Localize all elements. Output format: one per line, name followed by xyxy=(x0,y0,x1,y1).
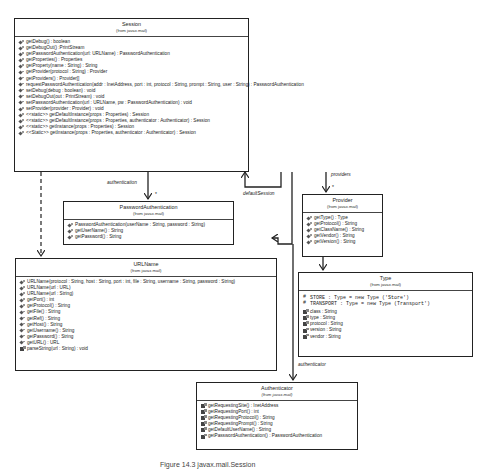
class-package: (from javax.mail) xyxy=(299,282,472,288)
public-method-icon xyxy=(19,107,24,111)
class-header: Provider (from javax.mail) xyxy=(303,195,382,213)
public-method-icon xyxy=(19,46,24,50)
class-name: Session xyxy=(15,21,248,28)
multiplicity-providers: * xyxy=(332,184,334,190)
public-method-icon xyxy=(20,298,25,302)
public-method-icon xyxy=(19,119,24,123)
static-field-icon xyxy=(303,302,308,306)
attribute-row: parseString(url : String) : void xyxy=(20,346,273,352)
private-member-icon xyxy=(303,316,308,320)
public-method-icon xyxy=(68,235,73,239)
class-name: Provider xyxy=(303,197,382,204)
class-name: Authenticator xyxy=(197,385,357,392)
method-row: getPassword() : String xyxy=(68,234,230,240)
public-method-icon xyxy=(20,292,25,296)
class-urlname[interactable]: URLName (from javax.mail) URLName(protoc… xyxy=(15,258,277,371)
public-method-icon xyxy=(20,341,25,345)
class-name: Type xyxy=(299,275,472,282)
public-method-icon xyxy=(19,58,24,62)
private-member-icon xyxy=(303,329,308,333)
public-method-icon xyxy=(20,329,25,333)
class-package: (from javax.mail) xyxy=(64,211,233,217)
member-text: <<Static>> getInstance(props : Propertie… xyxy=(26,130,196,136)
private-member-icon xyxy=(303,322,308,326)
association-default-session xyxy=(245,172,281,187)
public-method-icon xyxy=(19,52,24,56)
class-password-authentication[interactable]: PasswordAuthentication (from javax.mail)… xyxy=(63,201,234,245)
class-header: Authenticator (from javax.mail) xyxy=(197,383,357,401)
public-method-icon xyxy=(19,83,24,87)
private-member-icon xyxy=(201,416,206,420)
method-list: getType() : TypegetProtocol() : Stringge… xyxy=(303,213,382,247)
public-method-icon xyxy=(20,286,25,290)
class-name: PasswordAuthentication xyxy=(64,204,233,211)
class-header: URLName (from javax.mail) xyxy=(16,259,276,277)
private-member-icon xyxy=(201,404,206,408)
public-method-icon xyxy=(307,228,312,232)
member-text: parseString(url : String) : void xyxy=(27,346,88,352)
private-member-icon xyxy=(201,410,206,414)
label-authentication: authentication xyxy=(107,180,137,185)
constant-row: TRANSPORT : Type = new Type (Transport') xyxy=(303,301,469,307)
public-method-icon xyxy=(19,131,24,135)
method-list: getDebug() : booleangetDebugOut() :Print… xyxy=(15,37,248,139)
label-default-session: defaultSession xyxy=(243,191,274,196)
member-text: getPasswordAuthentication() : PasswordAu… xyxy=(208,433,322,439)
method-list: PasswordAuthentication(userName : String… xyxy=(64,220,233,242)
private-member-icon xyxy=(201,428,206,432)
label-providers: providers xyxy=(331,172,351,177)
public-method-icon xyxy=(19,64,24,68)
class-package: (from javax.mail) xyxy=(16,268,276,274)
public-method-icon xyxy=(19,125,24,129)
public-method-icon xyxy=(19,89,24,93)
attribute-row: getPasswordAuthentication() : PasswordAu… xyxy=(201,433,354,439)
label-authenticator: authenticator xyxy=(298,362,326,367)
public-method-icon xyxy=(20,317,25,321)
class-authenticator[interactable]: Authenticator (from javax.mail) getReque… xyxy=(196,382,358,450)
private-member-icon xyxy=(303,335,308,339)
public-method-icon xyxy=(307,240,312,244)
method-list: URLName(protocol : String, host : String… xyxy=(16,277,276,354)
public-method-icon xyxy=(20,335,25,339)
method-row: <<Static>> getInstance(props : Propertie… xyxy=(19,130,245,136)
public-method-icon xyxy=(68,223,73,227)
public-method-icon xyxy=(19,101,24,105)
public-method-icon xyxy=(307,222,312,226)
multiplicity-authentication: * xyxy=(155,191,157,197)
figure-caption: Figure 14.3 javax.mail.Session xyxy=(160,461,255,468)
class-type[interactable]: Type (from javax.mail) STORE : Type = ne… xyxy=(298,272,473,357)
public-method-icon xyxy=(20,280,25,284)
public-method-icon xyxy=(68,229,73,233)
class-header: PasswordAuthentication (from javax.mail) xyxy=(64,202,233,220)
public-method-icon xyxy=(20,311,25,315)
private-member-icon xyxy=(303,310,308,314)
method-row: getVersion() : String xyxy=(307,239,379,245)
public-method-icon xyxy=(19,95,24,99)
class-provider[interactable]: Provider (from javax.mail) getType() : T… xyxy=(302,194,383,257)
member-text: vendor : String xyxy=(310,334,341,340)
private-member-icon xyxy=(201,422,206,426)
member-text: getVersion() : String xyxy=(314,239,355,245)
public-method-icon xyxy=(307,216,312,220)
public-method-icon xyxy=(19,77,24,81)
class-header: Type (from javax.mail) xyxy=(299,273,472,291)
method-list: getRequestingSite() : InetAddressgetRequ… xyxy=(197,401,357,442)
member-text: getPassword() : String xyxy=(75,234,121,240)
class-name: URLName xyxy=(16,261,276,268)
class-package: (from javax.mail) xyxy=(303,204,382,210)
private-member-icon xyxy=(201,435,206,439)
attribute-list: class : Stringtype : Stringprotocol : St… xyxy=(299,309,472,341)
attribute-row: vendor : String xyxy=(303,334,469,340)
public-method-icon xyxy=(19,113,24,117)
class-header: Session (from javax.mail) xyxy=(15,19,248,37)
member-text: TRANSPORT : Type = new Type (Transport') xyxy=(310,301,430,307)
class-session[interactable]: Session (from javax.mail) getDebug() : b… xyxy=(14,18,249,172)
public-method-icon xyxy=(19,71,24,75)
class-package: (from javax.mail) xyxy=(197,392,357,398)
association-authenticator-pw xyxy=(272,172,292,244)
public-method-icon xyxy=(20,304,25,308)
public-method-icon xyxy=(19,40,24,44)
public-method-icon xyxy=(307,234,312,238)
class-package: (from javax.mail) xyxy=(15,28,248,34)
public-method-icon xyxy=(20,323,25,327)
